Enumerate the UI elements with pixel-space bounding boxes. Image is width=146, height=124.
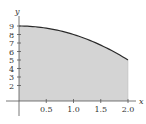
y-tick-label: 6	[9, 48, 14, 57]
x-axis-label: x	[139, 97, 144, 106]
area-chart: 0.51.01.52.0 23456789 x y	[0, 0, 146, 124]
y-tick-label: 9	[9, 22, 14, 31]
y-axis-label: y	[14, 7, 20, 16]
x-tick-label: 0.5	[40, 105, 53, 114]
x-tick-label: 1.5	[94, 105, 107, 114]
y-tick-label: 7	[9, 39, 14, 48]
x-tick-label: 1.0	[67, 105, 80, 114]
y-tick-label: 8	[9, 31, 14, 40]
shaded-area	[19, 26, 128, 101]
y-tick-label: 3	[9, 73, 14, 82]
y-tick-label: 4	[9, 65, 14, 74]
y-tick-label: 2	[9, 82, 14, 91]
y-tick-label: 5	[9, 56, 14, 65]
x-tick-label: 2.0	[122, 105, 135, 114]
